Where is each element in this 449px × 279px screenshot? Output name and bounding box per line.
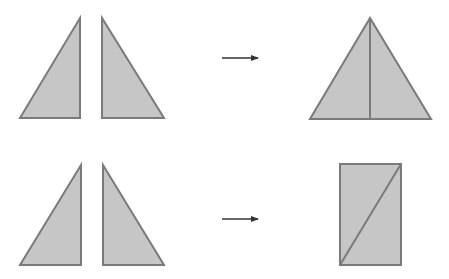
- left-right-triangle: [20, 18, 80, 118]
- right-right-triangle: [103, 165, 164, 265]
- row-rectangle: [20, 164, 401, 265]
- row-isosceles: [20, 18, 431, 119]
- diagram-canvas: [0, 0, 449, 279]
- left-right-triangle: [20, 165, 81, 265]
- right-right-triangle: [102, 18, 164, 118]
